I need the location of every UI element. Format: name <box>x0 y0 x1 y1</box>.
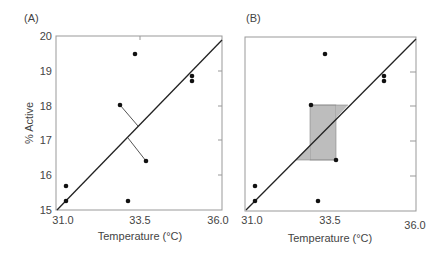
x-axis-title-a: Temperature (°C) <box>98 230 182 242</box>
data-points-a <box>64 52 195 204</box>
panel-b: (B) 31.0 33.5 36.0 Temperature (°C) <box>241 12 425 244</box>
panel-a-label: (A) <box>24 12 39 24</box>
x-axis-title-b: Temperature (°C) <box>288 232 372 244</box>
plot-frame-a <box>56 36 222 210</box>
panel-a: (A) 20 19 18 17 16 15 31.0 33.5 36.0 Tem… <box>23 12 229 242</box>
svg-text:31.0: 31.0 <box>241 214 262 226</box>
x-tick-labels-a: 31.0 33.5 36.0 <box>52 214 228 226</box>
svg-text:18: 18 <box>40 100 52 112</box>
y-ticks-right-b <box>410 72 416 176</box>
svg-text:19: 19 <box>40 65 52 77</box>
x-tick-labels-b: 31.0 33.5 36.0 <box>241 214 425 231</box>
svg-text:31.0: 31.0 <box>52 214 73 226</box>
svg-text:36.0: 36.0 <box>404 219 425 231</box>
fit-line-a <box>57 40 222 210</box>
panel-b-label: (B) <box>246 12 261 24</box>
shaded-triangle-upper <box>336 105 348 118</box>
svg-text:33.5: 33.5 <box>129 214 150 226</box>
svg-text:33.5: 33.5 <box>319 214 340 226</box>
svg-text:16: 16 <box>40 169 52 181</box>
y-ticks-right-a <box>218 71 222 175</box>
residual-segment-lower <box>128 138 146 161</box>
y-axis-title: % Active <box>23 102 35 144</box>
svg-text:36.0: 36.0 <box>207 214 228 226</box>
y-tick-labels-a: 20 19 18 17 16 15 <box>40 30 52 216</box>
svg-text:17: 17 <box>40 134 52 146</box>
residual-segment-upper <box>120 105 138 126</box>
svg-text:20: 20 <box>40 30 52 42</box>
fit-line-b <box>246 39 416 210</box>
svg-text:15: 15 <box>40 204 52 216</box>
figure: (A) 20 19 18 17 16 15 31.0 33.5 36.0 Tem… <box>0 0 442 253</box>
